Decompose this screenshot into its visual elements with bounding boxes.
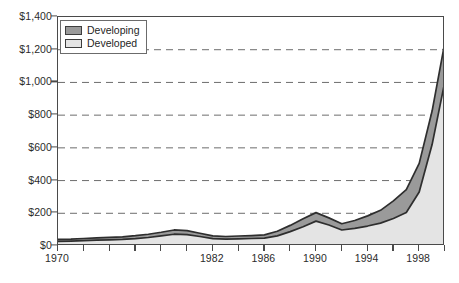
x-tick-label: 1994: [355, 252, 379, 266]
area-series-group: [58, 42, 444, 245]
chart-legend: Developing Developed: [60, 20, 147, 54]
legend-swatch-developing: [65, 26, 82, 35]
x-tick-label: 1970: [45, 252, 69, 266]
x-tick-label: 1982: [200, 252, 224, 266]
x-tick-mark: [392, 245, 393, 251]
x-tick-label: 1998: [406, 252, 430, 266]
legend-label-developed: Developed: [87, 38, 137, 49]
x-tick-mark: [83, 245, 84, 251]
x-tick-mark: [109, 245, 110, 251]
x-tick-mark: [367, 245, 368, 251]
area-developing: [58, 42, 444, 242]
x-tick-mark: [315, 245, 316, 251]
gridlines: [58, 50, 444, 214]
x-axis-labels: 197019821986199019941998: [0, 252, 459, 268]
x-tick-mark: [341, 245, 342, 251]
y-tick-label: $1,400: [0, 11, 52, 22]
legend-swatch-developed: [65, 39, 82, 48]
x-tick-mark: [444, 245, 445, 251]
figure-caption: [16, 274, 446, 283]
x-tick-mark: [57, 245, 58, 251]
x-tick-mark: [238, 245, 239, 251]
y-tick-label: $400: [0, 174, 52, 185]
x-tick-mark: [134, 245, 135, 251]
legend-item-developing: Developing: [65, 24, 140, 37]
y-tick-label: $1,000: [0, 76, 52, 87]
y-tick-label: $200: [0, 207, 52, 218]
legend-label-developing: Developing: [87, 25, 140, 36]
x-tick-label: 1986: [252, 252, 276, 266]
x-tick-label: 1990: [303, 252, 327, 266]
y-tick-label: $600: [0, 142, 52, 153]
x-tick-mark: [160, 245, 161, 251]
x-tick-mark: [186, 245, 187, 251]
figure-container: $0$200$400$600$800$1,000$1,200$1,400 197…: [0, 0, 459, 283]
y-axis: $0$200$400$600$800$1,000$1,200$1,400: [0, 0, 52, 283]
x-tick-mark: [263, 245, 264, 251]
y-tick-label: $1,200: [0, 43, 52, 54]
legend-item-developed: Developed: [65, 37, 140, 50]
x-tick-mark: [418, 245, 419, 251]
x-tick-mark: [212, 245, 213, 251]
x-tick-mark: [289, 245, 290, 251]
y-tick-label: $800: [0, 109, 52, 120]
